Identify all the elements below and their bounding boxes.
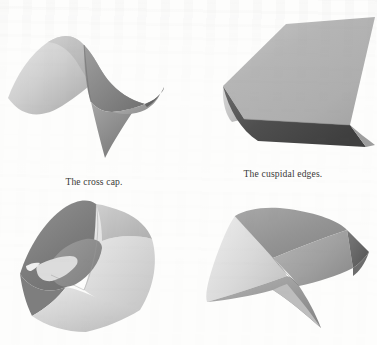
figure-image-cross-cap [0, 14, 188, 164]
figure-image-cuspidal-edges [189, 6, 377, 162]
figure-grid: The cross cap. [0, 0, 377, 345]
figure-image-swallowtail [0, 186, 188, 336]
figure-cell-cuspidal-edges: The cuspidal edges. [189, 6, 377, 174]
figure-cell-cuspidal-cross-cap: The cuspidal cross cap. [189, 186, 377, 345]
figure-cell-swallowtail: The swallowtail. [0, 186, 188, 345]
figure-image-cuspidal-cross-cap [189, 186, 377, 336]
figure-caption-cuspidal-edges: The cuspidal edges. [189, 168, 377, 179]
figure-cell-cross-cap: The cross cap. [0, 14, 188, 174]
